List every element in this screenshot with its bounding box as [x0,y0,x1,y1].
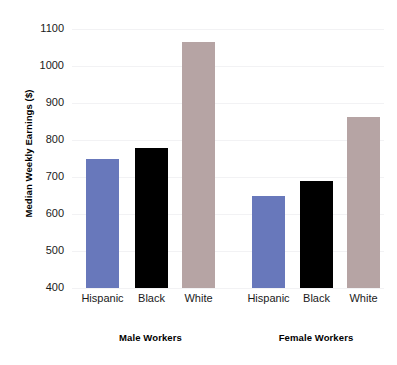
gridline [72,288,384,289]
bar-female-white [347,117,380,288]
x-axis-label-white: White [324,292,397,304]
y-axis-tick-label: 500 [18,245,64,256]
group-label-female: Female Workers [256,332,376,343]
gridline [72,66,384,67]
gridline [72,29,384,30]
bar-female-black [300,181,333,288]
y-axis-tick-label: 1100 [18,23,64,34]
gridline [72,140,384,141]
gridline [72,103,384,104]
bar-chart: Median Weekly Earnings ($) 1100100090080… [0,0,397,365]
y-axis-tick-label: 1000 [18,60,64,71]
y-axis-tick-label: 800 [18,134,64,145]
y-axis-tick-label: 600 [18,208,64,219]
group-label-male: Male Workers [91,332,211,343]
y-axis-tick-label: 700 [18,171,64,182]
bar-male-black [135,148,168,288]
plot-area [72,29,384,288]
x-axis-label-white: White [159,292,239,304]
bar-male-white [182,42,215,288]
y-axis-tick-label: 900 [18,97,64,108]
bar-male-hispanic [86,159,119,289]
y-axis-tick-label: 400 [18,282,64,293]
bar-female-hispanic [252,196,285,289]
